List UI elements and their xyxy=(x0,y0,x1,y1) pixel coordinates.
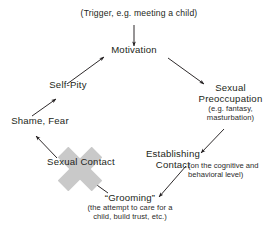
node-sexual-preoccupation-line2: Preoccupation xyxy=(183,94,278,105)
offence-cycle-diagram: (Trigger, e.g. meeting a child) Motivati… xyxy=(0,0,278,239)
edge-grooming-to-sexual-contact xyxy=(80,173,108,193)
node-shame-fear: Shame, Fear xyxy=(0,116,80,127)
node-shame-fear-label: Shame, Fear xyxy=(0,116,80,127)
node-motivation: Motivation xyxy=(84,45,184,56)
establishing-contact-note: (on the cognitive and behavioral level) xyxy=(188,161,259,180)
node-grooming: “Grooming” (the attempt to care for a ch… xyxy=(60,193,200,222)
edge-shame-fear-to-self-pity xyxy=(32,99,56,116)
node-trigger: (Trigger, e.g. meeting a child) xyxy=(0,9,278,19)
establishing-contact-note-line1: (on the cognitive and xyxy=(188,161,259,170)
node-trigger-label: (Trigger, e.g. meeting a child) xyxy=(0,9,278,19)
node-grooming-label: “Grooming” xyxy=(60,193,200,204)
edge-motivation-to-preoccupation xyxy=(168,58,204,84)
edge-sexual-contact-to-shame-fear xyxy=(36,136,57,158)
node-self-pity: Self-Pity xyxy=(28,80,108,91)
node-self-pity-label: Self-Pity xyxy=(28,80,108,91)
node-grooming-sub2: child, build trust, etc.) xyxy=(60,213,200,222)
node-sexual-contact-label: Sexual Contact xyxy=(26,157,136,168)
node-sexual-contact: Sexual Contact xyxy=(26,157,136,168)
node-sexual-preoccupation-sub2: masturbation) xyxy=(183,114,278,123)
node-motivation-label: Motivation xyxy=(84,45,184,56)
establishing-contact-note-line2: behavioral level) xyxy=(188,170,259,179)
cross-watermark-icon xyxy=(55,143,105,195)
node-sexual-preoccupation: Sexual Preoccupation (e.g. fantasy, mast… xyxy=(183,83,278,122)
